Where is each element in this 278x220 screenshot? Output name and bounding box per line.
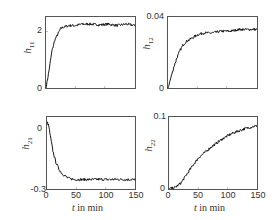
ylabel-text: h [140, 44, 152, 50]
ylabel-subscript: 22 [149, 139, 157, 146]
y-axis-label-h21: h21 [19, 137, 34, 150]
x-tick-100: 100 [216, 191, 240, 200]
y-tick-0.04: 0.04 [140, 12, 164, 21]
ylabel-text: h [19, 144, 31, 150]
x-tick-0: 0 [156, 191, 180, 200]
x-tick-100: 100 [94, 191, 118, 200]
xlabel-unit: in min [75, 202, 103, 213]
y-tick-0.1: 0.1 [148, 112, 166, 121]
y-tick-2: 2 [28, 26, 42, 35]
line-series-h11 [46, 17, 135, 88]
x-tick-50: 50 [186, 191, 210, 200]
x-tick-50: 50 [64, 191, 88, 200]
y-axis-label-h22: h22 [142, 139, 157, 152]
y-tick-0: 0 [150, 84, 164, 93]
ylabel-subscript: 12 [147, 37, 155, 44]
x-tick-150: 150 [124, 191, 148, 200]
x-tick-150: 150 [246, 191, 270, 200]
axes-h21 [46, 116, 136, 190]
xlabel-unit: in min [197, 202, 225, 213]
axes-h12 [167, 16, 258, 89]
line-series-h21 [47, 117, 135, 189]
y-tick-0: 0 [28, 124, 42, 133]
ylabel-subscript: 21 [26, 137, 34, 144]
y-axis-label-h12: h12 [140, 37, 155, 50]
axes-h11 [45, 16, 136, 89]
x-tick-0: 0 [34, 191, 58, 200]
ylabel-text: h [21, 48, 33, 54]
ylabel-text: h [142, 146, 154, 152]
x-axis-label-h22: t in min [194, 202, 225, 213]
ylabel-subscript: 11 [28, 41, 36, 48]
y-axis-label-h11: h11 [21, 41, 36, 53]
x-axis-label-h21: t in min [72, 202, 103, 213]
line-series-h12 [168, 17, 257, 88]
axes-h22 [168, 116, 258, 190]
line-series-h22 [169, 117, 257, 189]
y-tick-0: 0 [28, 84, 42, 93]
